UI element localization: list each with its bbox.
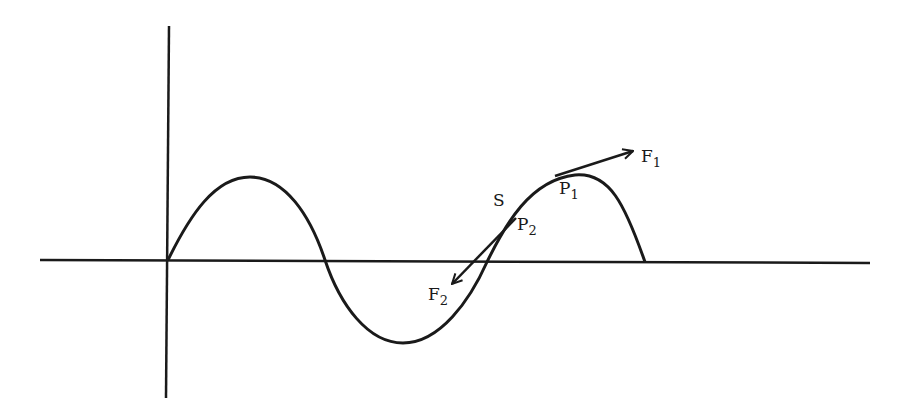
label-f1: F1 <box>641 148 661 169</box>
diagram-canvas: S P1 P2 F1 F2 <box>0 0 907 415</box>
force-vector-f1 <box>555 151 633 176</box>
diagram-svg <box>0 0 907 415</box>
y-axis <box>166 26 169 398</box>
label-p1: P1 <box>559 180 579 201</box>
label-p2: P2 <box>517 216 537 237</box>
force-vector-f2 <box>452 218 516 284</box>
label-s: S <box>493 192 505 209</box>
x-axis <box>40 260 870 263</box>
label-f2: F2 <box>428 286 448 307</box>
